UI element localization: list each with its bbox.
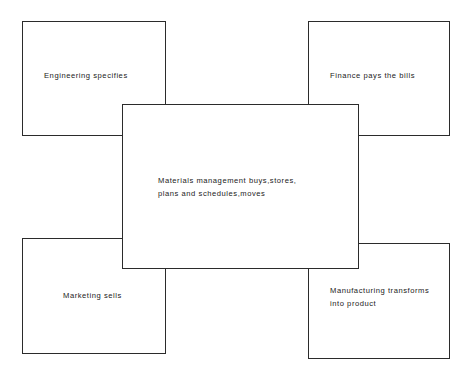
box-manufacturing-label: Manufacturing transforms into product <box>330 285 429 310</box>
diagram-canvas: Engineering specifies Finance pays the b… <box>0 0 471 377</box>
box-finance-label: Finance pays the bills <box>330 70 415 83</box>
box-engineering-label: Engineering specifies <box>44 70 128 83</box>
box-marketing-label: Marketing sells <box>63 290 122 303</box>
box-materials-management-label: Materials management buys,stores, plans … <box>158 175 296 200</box>
